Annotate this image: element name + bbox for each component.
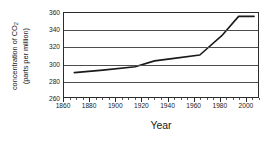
x-tick-minor-1985 bbox=[226, 98, 227, 100]
x-tick-minor-1995 bbox=[239, 98, 240, 100]
y-tick-label-300: 300 bbox=[40, 60, 60, 67]
x-tick-minor-1875 bbox=[83, 98, 84, 100]
y-tick-label-320: 320 bbox=[40, 43, 60, 50]
x-tick-minor-1890 bbox=[102, 98, 103, 100]
x-tick-minor-1975 bbox=[213, 98, 214, 100]
co2-line-chart: concentration of CO2 (parts per million)… bbox=[0, 0, 277, 142]
x-tick-minor-1990 bbox=[233, 98, 234, 100]
x-tick-minor-1950 bbox=[181, 98, 182, 100]
x-tick-label-1900: 1900 bbox=[108, 102, 123, 109]
x-tick-label-1860: 1860 bbox=[56, 102, 71, 109]
data-series-line bbox=[64, 13, 258, 97]
x-tick-minor-1865 bbox=[70, 98, 71, 100]
x-tick-minor-1905 bbox=[122, 98, 123, 100]
x-tick-minor-1930 bbox=[154, 98, 155, 100]
x-tick-minor-1885 bbox=[96, 98, 97, 100]
x-tick-label-2000: 2000 bbox=[239, 102, 254, 109]
x-tick-minor-1910 bbox=[128, 98, 129, 100]
y-tick-label-360: 360 bbox=[40, 9, 60, 16]
x-tick-label-1960: 1960 bbox=[186, 102, 201, 109]
x-tick-minor-2005 bbox=[252, 98, 253, 100]
x-axis-tick-labels: 18601880190019201940196019802000 bbox=[63, 102, 259, 113]
x-tick-minor-1970 bbox=[207, 98, 208, 100]
gridline-y-340 bbox=[64, 30, 258, 31]
gridline-y-300 bbox=[64, 65, 258, 66]
x-tick-minor-1915 bbox=[135, 98, 136, 100]
x-tick-minor-1965 bbox=[200, 98, 201, 100]
y-tick-label-260: 260 bbox=[40, 95, 60, 102]
x-tick-label-1980: 1980 bbox=[212, 102, 227, 109]
y-axis-title-line2: (parts per million) bbox=[21, 22, 30, 90]
y-tick-label-280: 280 bbox=[40, 77, 60, 84]
y-axis-title-subscript: 2 bbox=[13, 22, 19, 25]
x-tick-minor-1935 bbox=[161, 98, 162, 100]
y-axis-tick-labels: 260280300320340360 bbox=[38, 12, 60, 98]
y-axis-title-line1: concentration of CO bbox=[10, 25, 19, 90]
x-tick-minor-2010 bbox=[259, 98, 260, 100]
x-tick-minor-1895 bbox=[109, 98, 110, 100]
plot-area bbox=[63, 12, 259, 98]
gridline-y-320 bbox=[64, 47, 258, 48]
y-tick-label-340: 340 bbox=[40, 26, 60, 33]
x-tick-minor-1945 bbox=[174, 98, 175, 100]
x-tick-label-1880: 1880 bbox=[82, 102, 97, 109]
gridline-y-280 bbox=[64, 82, 258, 83]
x-tick-label-1920: 1920 bbox=[134, 102, 149, 109]
x-tick-minor-1955 bbox=[187, 98, 188, 100]
x-axis-title: Year bbox=[63, 119, 259, 131]
x-tick-label-1940: 1940 bbox=[160, 102, 175, 109]
y-axis-title-text: concentration of CO2 (parts per million) bbox=[10, 22, 30, 90]
x-tick-minor-1925 bbox=[148, 98, 149, 100]
x-tick-minor-1870 bbox=[76, 98, 77, 100]
y-axis-title: concentration of CO2 (parts per million) bbox=[0, 0, 40, 112]
